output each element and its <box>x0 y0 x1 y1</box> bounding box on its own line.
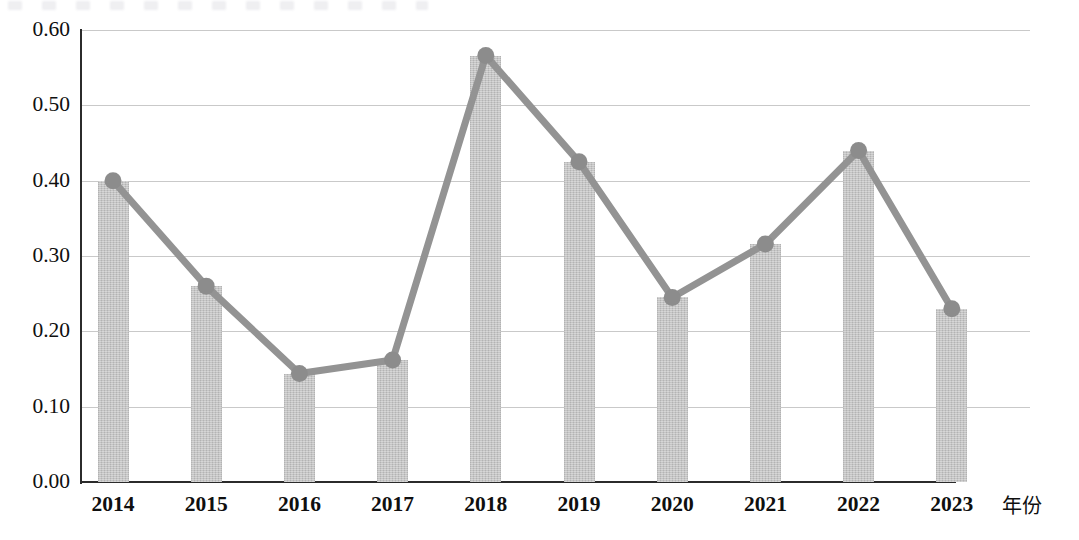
plot-area: 0.600.500.400.300.200.100.00 20142015201… <box>0 0 1079 540</box>
bar <box>377 360 408 482</box>
gridline <box>82 331 1030 332</box>
gridline <box>82 256 1030 257</box>
x-axis-tick-label: 2018 <box>439 492 533 516</box>
y-axis-tick-label: 0.40 <box>0 169 70 191</box>
x-axis-tick-label: 2016 <box>252 492 346 516</box>
gridline <box>82 181 1030 182</box>
bar <box>191 286 222 482</box>
y-axis-tick-label: 0.20 <box>0 319 70 341</box>
x-axis-tick-label: 2017 <box>346 492 440 516</box>
x-axis-tick-label: 2022 <box>812 492 906 516</box>
x-axis-tick-label: 2015 <box>159 492 253 516</box>
x-axis-tick-label: 2023 <box>905 492 999 516</box>
bar <box>564 162 595 482</box>
y-axis-tick-label: 0.30 <box>0 244 70 266</box>
bar <box>284 374 315 482</box>
gridline <box>82 30 1030 31</box>
x-axis-tick-label: 2021 <box>718 492 812 516</box>
x-axis-tick-label: 2014 <box>66 492 160 516</box>
x-axis-tick-label: 2020 <box>625 492 719 516</box>
y-axis-line <box>80 29 82 484</box>
bar <box>98 181 129 482</box>
chart-root: 0.600.500.400.300.200.100.00 20142015201… <box>0 0 1079 540</box>
y-axis-tick-label: 0.60 <box>0 18 70 40</box>
bar <box>750 244 781 482</box>
y-axis-tick-label: 0.00 <box>0 470 70 492</box>
bar <box>936 309 967 482</box>
line-series-path <box>113 56 952 374</box>
bar <box>843 151 874 482</box>
y-axis-tick-label: 0.10 <box>0 395 70 417</box>
bar <box>470 56 501 482</box>
line-series-layer <box>0 0 1079 540</box>
gridline <box>82 407 1030 408</box>
gridline <box>82 105 1030 106</box>
bar <box>657 297 688 482</box>
y-axis-tick-label: 0.50 <box>0 93 70 115</box>
x-axis-title: 年份 <box>1002 494 1042 518</box>
x-axis-tick-label: 2019 <box>532 492 626 516</box>
